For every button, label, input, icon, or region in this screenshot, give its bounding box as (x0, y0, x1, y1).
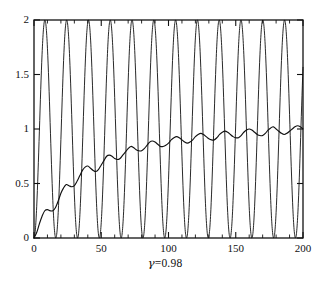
y-tick-label: 1.5 (0, 69, 29, 80)
axis-ticks (34, 20, 303, 238)
y-tick-label: 0.5 (0, 178, 29, 189)
figure-caption: γ=0.98 (0, 256, 330, 270)
data-series-group (34, 20, 303, 238)
x-tick-label: 150 (216, 243, 256, 254)
axes-frame (34, 20, 303, 238)
x-tick-label: 0 (14, 243, 54, 254)
x-tick-label: 50 (81, 243, 121, 254)
y-tick-label: 1 (0, 123, 29, 134)
x-tick-label: 200 (283, 243, 323, 254)
y-tick-label: 0 (0, 232, 29, 243)
figure-container: 00.511.52 050100150200 γ=0.98 (0, 0, 330, 288)
x-tick-label: 100 (149, 243, 189, 254)
y-tick-label: 2 (0, 14, 29, 25)
gamma-symbol: γ (148, 256, 155, 270)
caption-value: 0.98 (161, 257, 182, 269)
fast-oscillation-curve (34, 20, 303, 238)
plot-frame-box (34, 20, 303, 238)
